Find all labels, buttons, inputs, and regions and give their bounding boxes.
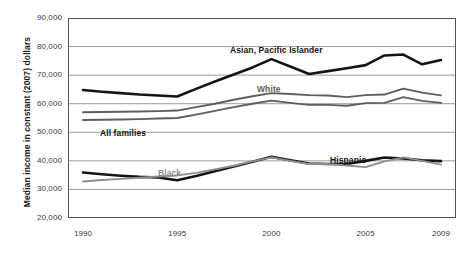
chart-container: Median income in constant (2007) dollars… (0, 0, 475, 272)
series-label: White (257, 84, 281, 94)
series-label: All families (100, 128, 146, 138)
x-tick-label: 1995 (157, 229, 197, 238)
y-tick-label: 90,000 (16, 13, 62, 22)
gridlines (68, 18, 456, 189)
series-label: Asian, Pacific Islander (230, 45, 323, 55)
y-tick-label: 70,000 (16, 70, 62, 79)
y-tick-label: 20,000 (16, 213, 62, 222)
x-tick-label: 2005 (346, 229, 386, 238)
series-line (83, 97, 441, 120)
y-tick-label: 60,000 (16, 99, 62, 108)
x-tick-label: 2009 (421, 229, 461, 238)
y-tick-label: 80,000 (16, 42, 62, 51)
x-tick-label: 1990 (63, 229, 103, 238)
series-label: Hispanic (330, 155, 366, 165)
y-tick-label: 50,000 (16, 127, 62, 136)
x-tick-label: 2000 (251, 229, 291, 238)
y-tick-label: 40,000 (16, 156, 62, 165)
series-label: Black (158, 168, 181, 178)
y-tick-label: 30,000 (16, 184, 62, 193)
series-lines (83, 55, 441, 182)
